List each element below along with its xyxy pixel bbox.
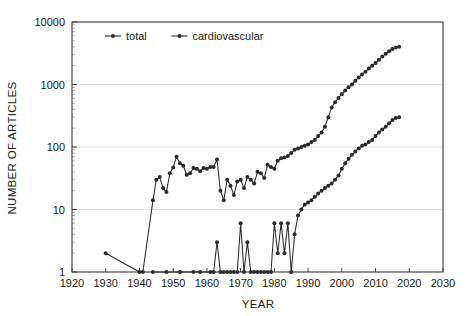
- y-axis-tick-labels: 110100100010000: [34, 16, 65, 278]
- series-cardiovascular: [151, 115, 401, 274]
- data-point: [215, 240, 219, 244]
- x-tick-label: 1970: [228, 277, 252, 289]
- data-point: [347, 85, 351, 89]
- data-point: [154, 178, 158, 182]
- data-point: [239, 221, 243, 225]
- grid-lines: [72, 85, 443, 210]
- data-point: [303, 203, 307, 207]
- data-point: [249, 178, 253, 182]
- data-point: [171, 165, 175, 169]
- x-tick-label: 2000: [330, 277, 354, 289]
- data-point: [387, 49, 391, 53]
- data-point: [350, 153, 354, 157]
- x-tick-label: 1990: [296, 277, 320, 289]
- data-point: [363, 142, 367, 146]
- data-point: [205, 167, 209, 171]
- x-tick-label: 2020: [397, 277, 421, 289]
- data-point: [330, 182, 334, 186]
- x-axis-tick-labels: 1920193019401950196019701980199020002010…: [60, 277, 455, 289]
- data-point: [289, 151, 293, 155]
- data-point: [357, 146, 361, 150]
- data-point: [397, 45, 401, 49]
- data-point: [289, 270, 293, 274]
- data-point: [245, 240, 249, 244]
- data-point: [151, 198, 155, 202]
- data-point: [380, 55, 384, 59]
- data-point: [168, 171, 172, 175]
- data-point: [252, 182, 256, 186]
- y-tick-label: 10: [53, 204, 65, 216]
- data-point: [293, 232, 297, 236]
- data-point: [235, 270, 239, 274]
- data-point: [158, 175, 162, 179]
- data-point: [222, 198, 226, 202]
- data-point: [350, 83, 354, 87]
- data-point: [175, 155, 179, 159]
- data-point: [279, 156, 283, 160]
- data-point: [313, 195, 317, 199]
- data-point: [198, 270, 202, 274]
- data-point: [141, 270, 145, 274]
- series-line-cardiovascular: [153, 117, 399, 272]
- data-point: [353, 149, 357, 153]
- data-point: [276, 251, 280, 255]
- legend-label-1: cardiovascular: [193, 30, 264, 42]
- data-point: [323, 125, 327, 129]
- x-tick-label: 1950: [161, 277, 185, 289]
- data-point: [286, 221, 290, 225]
- data-point: [323, 186, 327, 190]
- data-point: [104, 251, 108, 255]
- data-point: [316, 134, 320, 138]
- data-point: [286, 154, 290, 158]
- chart-canvas: 1920193019401950196019701980199020002010…: [0, 0, 473, 316]
- x-tick-label: 1960: [195, 277, 219, 289]
- data-point: [245, 175, 249, 179]
- data-point: [296, 214, 300, 218]
- data-point: [330, 105, 334, 109]
- x-tick-label: 1980: [262, 277, 286, 289]
- data-point: [242, 186, 246, 190]
- legend: totalcardiovascular: [105, 30, 264, 42]
- data-point: [191, 166, 195, 170]
- data-point: [309, 140, 313, 144]
- data-point: [367, 140, 371, 144]
- data-point: [336, 96, 340, 100]
- data-point: [320, 131, 324, 135]
- data-point: [272, 221, 276, 225]
- data-point: [343, 89, 347, 93]
- data-point: [161, 186, 165, 190]
- data-point: [191, 270, 195, 274]
- legend-marker-0: [111, 34, 115, 38]
- data-point: [357, 75, 361, 79]
- data-point: [340, 167, 344, 171]
- data-point: [229, 184, 233, 188]
- data-point: [374, 61, 378, 65]
- data-point: [377, 58, 381, 62]
- data-point: [282, 251, 286, 255]
- data-point: [259, 171, 263, 175]
- data-point: [343, 161, 347, 165]
- data-point: [326, 184, 330, 188]
- data-point: [347, 157, 351, 161]
- x-axis-title: YEAR: [242, 298, 275, 310]
- data-point: [266, 163, 270, 167]
- data-point: [390, 118, 394, 122]
- data-point: [212, 165, 216, 169]
- data-point: [326, 115, 330, 119]
- series-total: [104, 45, 401, 274]
- y-tick-label: 1000: [41, 79, 65, 91]
- y-tick-label: 10000: [34, 16, 65, 28]
- data-point: [239, 178, 243, 182]
- data-point: [363, 70, 367, 74]
- x-tick-label: 2030: [431, 277, 455, 289]
- data-point: [377, 131, 381, 135]
- data-point: [394, 46, 398, 50]
- data-point: [181, 164, 185, 168]
- data-point: [178, 270, 182, 274]
- data-point: [370, 64, 374, 68]
- y-axis-ticks: [72, 22, 77, 272]
- data-point: [151, 270, 155, 274]
- data-point: [380, 128, 384, 132]
- data-point: [394, 116, 398, 120]
- data-point: [279, 221, 283, 225]
